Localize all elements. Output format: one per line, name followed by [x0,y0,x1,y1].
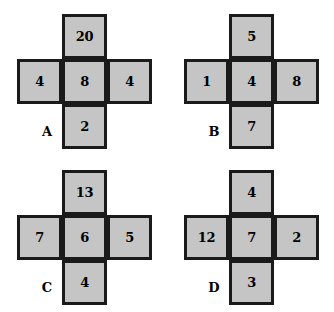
cross-cell-bottom: 3 [229,260,274,305]
cross-cell-left: 1 [184,59,229,104]
cross-cell-top: 5 [229,14,274,59]
cross-label: A [38,125,56,138]
cross-cell-right: 4 [107,59,152,104]
cross-cell-center: 7 [229,215,274,260]
cross-label: B [205,125,223,138]
cross-cell-bottom: 2 [62,104,107,149]
cross-cell-right: 8 [274,59,319,104]
cross-puzzle-grid: 20 4 8 4 2 A 5 1 4 8 7 B 13 7 6 5 4 C 4 … [0,0,334,312]
cross-cell-left: 7 [17,215,62,260]
cross-label: D [205,281,223,294]
cross-figure-a: 20 4 8 4 2 A [0,0,167,156]
cross-figure-d: 4 12 7 2 3 D [167,156,334,312]
cross-label: C [38,281,56,294]
cross-cell-left: 4 [17,59,62,104]
cross-cell-bottom: 4 [62,260,107,305]
cross-cell-bottom: 7 [229,104,274,149]
cross-cell-left: 12 [184,215,229,260]
cross-cell-top: 20 [62,14,107,59]
cross-cell-center: 6 [62,215,107,260]
cross-figure-c: 13 7 6 5 4 C [0,156,167,312]
cross-cell-center: 8 [62,59,107,104]
cross-cell-top: 4 [229,170,274,215]
cross-cell-center: 4 [229,59,274,104]
cross-cell-right: 2 [274,215,319,260]
cross-figure-b: 5 1 4 8 7 B [167,0,334,156]
cross-cell-right: 5 [107,215,152,260]
cross-cell-top: 13 [62,170,107,215]
